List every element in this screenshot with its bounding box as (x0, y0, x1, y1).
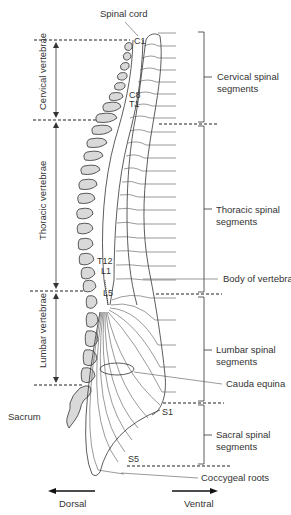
sacrum-label: Sacrum (8, 411, 41, 422)
marker-l1: L1 (101, 266, 111, 276)
lumbar-segments-label-1: Lumbar spinal (216, 344, 276, 355)
bracket-cervical (198, 32, 212, 122)
lumbar-arrow (53, 293, 59, 383)
vertebrae (67, 43, 132, 428)
coccygeal-pointer (121, 473, 198, 478)
lumbar-vertebrae-label: Lumbar vertebrae (37, 293, 48, 368)
spinal-diagram: Spinal cord Cervical vertebrae Thoracic … (0, 0, 291, 515)
cauda-pointer (134, 372, 222, 384)
cervical-arrow (53, 42, 59, 118)
sacral-segments-label-1: Sacral spinal (216, 429, 270, 440)
thoracic-segments-label-2: segments (216, 216, 257, 227)
sacral-segments-label-2: segments (216, 441, 257, 452)
dorsal-label: Dorsal (59, 498, 86, 509)
bracket-lumbar (198, 297, 212, 401)
spinal-cord-label: Spinal cord (100, 8, 148, 19)
spinal-cord-pointer (125, 22, 138, 36)
thoracic-arrow (53, 122, 59, 289)
marker-t12: T12 (97, 256, 113, 266)
body-of-vertebra-label: Body of vertebra (223, 273, 291, 284)
marker-l5: L5 (103, 288, 113, 298)
lumbar-segments-label-2: segments (216, 356, 257, 367)
ventral-label: Ventral (184, 498, 214, 509)
marker-s1: S1 (162, 407, 173, 417)
cervical-segments-label-2: segments (217, 83, 258, 94)
bracket-sacral (198, 405, 212, 464)
ventral-arrow (172, 488, 218, 494)
thoracic-vertebrae-label: Thoracic vertebrae (37, 161, 48, 240)
sacrum-shape (67, 386, 91, 428)
marker-s5: S5 (128, 454, 139, 464)
thoracic-segments-label-1: Thoracic spinal (216, 204, 280, 215)
marker-t1: T1 (129, 99, 140, 109)
coccygeal-roots-label: Coccygeal roots (201, 472, 269, 483)
cauda-equina-label: Cauda equina (226, 378, 286, 389)
cervical-vertebrae-label: Cervical vertebrae (37, 33, 48, 110)
bracket-thoracic (198, 126, 212, 292)
marker-c1: C1 (134, 36, 146, 46)
cervical-segments-label-1: Cervical spinal (217, 71, 279, 82)
dorsal-arrow (48, 488, 95, 494)
